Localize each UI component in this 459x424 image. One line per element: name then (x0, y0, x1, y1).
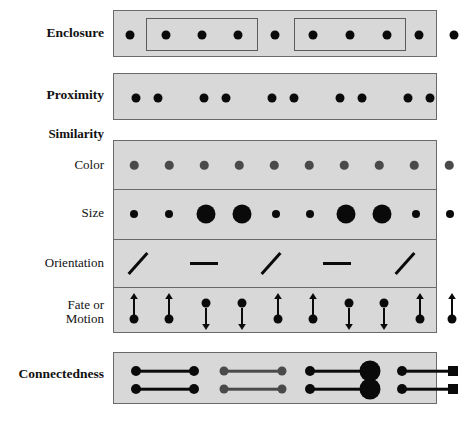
enclosure-dot (234, 30, 243, 39)
connected-circle (305, 384, 315, 394)
color-dot (305, 161, 314, 170)
proximity-dot (426, 93, 435, 102)
enclosure-dot (383, 30, 392, 39)
size-dot-small (306, 210, 314, 218)
connected-circle (131, 384, 141, 394)
connected-circle-gray (278, 367, 287, 376)
label-color: Color (74, 158, 104, 172)
size-dot-small (412, 210, 420, 218)
label-proximity: Proximity (47, 88, 105, 103)
color-dot (375, 161, 384, 170)
connector-line (136, 388, 194, 391)
proximity-dot (358, 93, 367, 102)
label-similarity: Similarity (48, 127, 104, 141)
connected-circle (305, 366, 315, 376)
connected-square (448, 366, 458, 376)
connected-circle (397, 366, 407, 376)
enclosure-dot (450, 30, 459, 39)
connector-line (136, 370, 194, 373)
similarity-row-size (114, 190, 436, 239)
connected-square (448, 384, 458, 394)
orientation-slash (261, 252, 282, 275)
orientation-horizontal (190, 262, 218, 265)
size-dot-large (373, 205, 392, 224)
proximity-dot (404, 93, 413, 102)
similarity-row-color (114, 141, 436, 189)
color-dot (235, 161, 244, 170)
color-dot (130, 161, 139, 170)
motion-arrow-down (344, 304, 354, 334)
motion-arrow-down (379, 304, 389, 334)
color-dot (270, 161, 279, 170)
size-dot-large (337, 205, 356, 224)
motion-dot (274, 315, 283, 324)
size-dot-small (272, 210, 280, 218)
color-dot (410, 161, 419, 170)
enclosure-dot (126, 30, 135, 39)
size-dot-small (165, 210, 173, 218)
size-dot-large (233, 205, 252, 224)
proximity-dot (268, 93, 277, 102)
proximity-dot (222, 93, 231, 102)
connector-line (402, 370, 454, 373)
connected-circle-gray (220, 367, 229, 376)
label-connectedness: Connectedness (18, 367, 104, 382)
connected-circle-large (360, 379, 381, 400)
panel-proximity (113, 73, 437, 120)
proximity-dot (290, 93, 299, 102)
similarity-row-fate-or-motion (114, 288, 436, 334)
similarity-row-orientation (114, 240, 436, 287)
enclosure-dot (162, 30, 171, 39)
proximity-dot (336, 93, 345, 102)
proximity-dot (154, 93, 163, 102)
connector-line (224, 388, 282, 391)
label-orientation: Orientation (45, 256, 104, 270)
panel-connectedness (113, 352, 437, 404)
label-column: Enclosure Proximity Similarity Color Siz… (0, 0, 104, 424)
color-dot (340, 161, 349, 170)
motion-dot (309, 315, 318, 324)
enclosure-dot (198, 30, 207, 39)
connector-line (402, 388, 454, 391)
orientation-slash (395, 252, 416, 275)
color-dot (445, 161, 454, 170)
enclosure-dot (415, 30, 424, 39)
color-dot (200, 161, 209, 170)
enclosure-dot (346, 30, 355, 39)
proximity-dot (200, 93, 209, 102)
enclosure-dot (309, 30, 318, 39)
connector-line (224, 370, 282, 373)
size-dot-small (130, 210, 138, 218)
panel-enclosure (113, 10, 437, 57)
orientation-slash (128, 252, 149, 275)
motion-dot (165, 315, 174, 324)
color-dot (165, 161, 174, 170)
motion-dot (130, 315, 139, 324)
connected-circle (397, 384, 407, 394)
connected-circle-gray (220, 385, 229, 394)
orientation-horizontal (323, 262, 351, 265)
connected-circle (131, 366, 141, 376)
label-enclosure: Enclosure (46, 26, 104, 41)
enclosure-dot (271, 30, 280, 39)
panel-similarity (113, 140, 437, 333)
label-fate-or-motion: Fate or Motion (66, 298, 104, 326)
motion-arrow-down (201, 304, 211, 334)
motion-dot (448, 315, 457, 324)
motion-arrow-down (237, 304, 247, 334)
proximity-dot (132, 93, 141, 102)
connected-circle-gray (278, 385, 287, 394)
motion-dot (416, 315, 425, 324)
connected-circle (189, 384, 199, 394)
size-dot-small (446, 210, 454, 218)
size-dot-large (197, 205, 216, 224)
connected-circle (189, 366, 199, 376)
label-size: Size (82, 206, 104, 220)
